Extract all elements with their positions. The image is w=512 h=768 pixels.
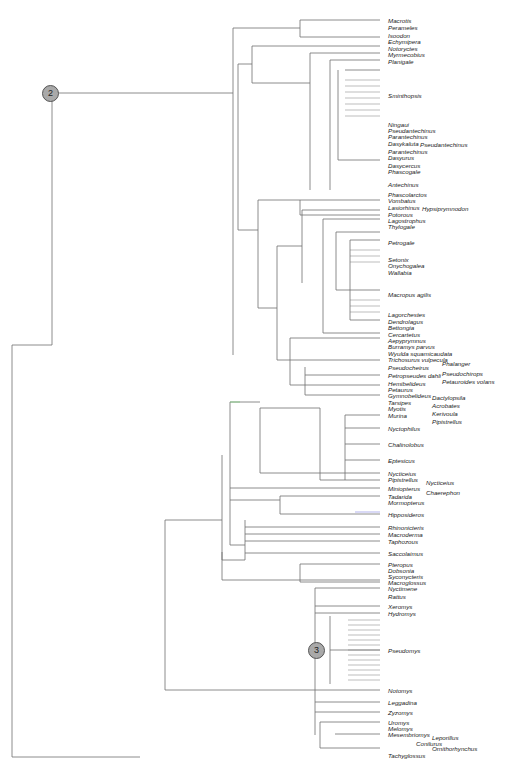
- taxon-label: Parantechinus: [388, 133, 428, 140]
- taxon-label: Tachyglossus: [388, 752, 425, 759]
- taxon-label: Xeromys: [388, 603, 412, 610]
- taxon-label: Thylogale: [388, 223, 415, 230]
- phylogenetic-tree: [0, 0, 512, 768]
- taxon-label: Taphozous: [388, 538, 418, 545]
- taxon-label: Petropseudes dahli: [388, 372, 441, 379]
- taxon-label: Sminthopsis: [388, 92, 422, 99]
- taxon-label: Hydromys: [388, 610, 416, 617]
- taxon-label: Acrobates: [432, 402, 460, 409]
- taxon-label: Hypsiprymnodon: [422, 205, 468, 212]
- taxon-label: Dactylopsila: [432, 394, 465, 401]
- taxon-label: Pipistrellus: [432, 418, 462, 425]
- taxon-label: Pseudocheirus: [388, 364, 429, 371]
- taxon-label: Myrmecobius: [388, 51, 425, 58]
- taxon-label: Saccolaimus: [388, 550, 423, 557]
- taxon-label: Onychogalea: [388, 262, 424, 269]
- taxon-label: Phalanger: [442, 360, 470, 367]
- taxon-label: Phascogale: [388, 168, 420, 175]
- taxon-label: Pseudomys: [388, 647, 420, 654]
- taxon-label: Trichosurus vulpecula: [388, 356, 448, 363]
- taxon-label: Macropus agilis: [388, 291, 431, 298]
- node-marker-3: 3: [308, 642, 325, 659]
- taxon-label: Leggadina: [388, 699, 417, 706]
- taxon-label: Pseudochirops: [442, 370, 483, 377]
- taxon-label: Bettongia: [388, 324, 414, 331]
- taxon-label: Miniopterus: [388, 485, 420, 492]
- taxon-label: Macroderma: [388, 531, 423, 538]
- taxon-label: Chaerephon: [426, 489, 460, 496]
- taxon-label: Vombatus: [388, 197, 416, 204]
- taxon-label: Petrogale: [388, 239, 415, 246]
- taxon-label: Perameles: [388, 24, 418, 31]
- taxon-label: Mesembriomys: [388, 731, 430, 738]
- taxon-label: Nyctimene: [388, 585, 417, 592]
- tree-branches: [12, 20, 380, 757]
- taxon-label: Zyzomys: [388, 709, 413, 716]
- taxon-label: Antechinus: [388, 181, 419, 188]
- taxon-label: Macrotis: [388, 17, 411, 24]
- taxon-label: Murina: [388, 412, 407, 419]
- taxon-label: Petauroides volans: [442, 378, 495, 385]
- taxon-label: Dasyurus: [388, 154, 414, 161]
- taxon-label: Dasykaluta: [388, 140, 419, 147]
- taxon-label: Lagorchestes: [388, 311, 425, 318]
- taxon-label: Eptesicus: [388, 457, 415, 464]
- taxon-label: Wallabia: [388, 269, 412, 276]
- taxon-label: Burramys parvus: [388, 343, 435, 350]
- taxon-label: Ornithorhynchus: [432, 745, 477, 752]
- taxon-label: Gymnobelideus: [388, 392, 431, 399]
- taxon-label: Hipposideros: [388, 511, 424, 518]
- taxon-label: Myotis: [388, 405, 406, 412]
- taxon-label: Kerivoula: [432, 410, 458, 417]
- taxon-label: Pseudantechinus: [420, 141, 467, 148]
- taxon-label: Lasiorhinus: [388, 204, 420, 211]
- taxon-label: Chalinolobus: [388, 441, 424, 448]
- taxon-label: Notomys: [388, 687, 412, 694]
- terminal-lines: [345, 80, 380, 680]
- taxon-label: Rattus: [388, 593, 406, 600]
- taxon-label: Nyctophilus: [388, 425, 420, 432]
- taxon-label: Rhinonicteris: [388, 524, 424, 531]
- taxon-label: Mormopterus: [388, 499, 424, 506]
- taxon-label: Echymipera: [388, 38, 421, 45]
- taxon-label: Pipistrellus: [388, 476, 418, 483]
- taxon-label: Nycticeius: [426, 479, 454, 486]
- node-marker-2: 2: [42, 85, 59, 102]
- taxon-label: Planigale: [388, 58, 413, 65]
